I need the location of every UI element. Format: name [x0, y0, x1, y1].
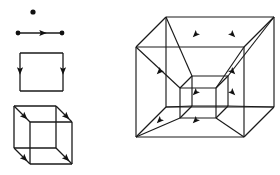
figure-background — [0, 0, 280, 175]
figure-canvas — [0, 0, 280, 175]
point-vertex-dot — [30, 9, 35, 14]
segment-vertex-dot — [60, 31, 65, 36]
segment-vertex-dot — [16, 31, 21, 36]
dimension-progression-figure — [0, 0, 280, 175]
panel-point-0d — [30, 9, 35, 14]
